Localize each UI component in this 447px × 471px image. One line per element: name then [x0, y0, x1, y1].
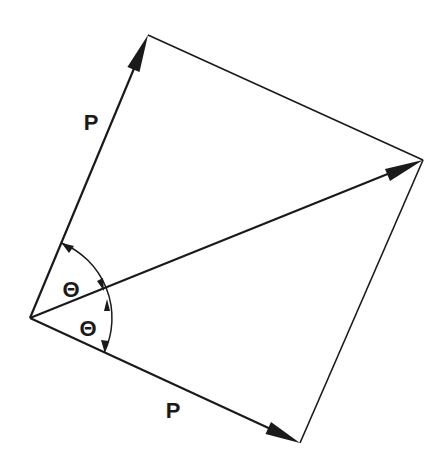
upper-angle-label: Θ	[62, 277, 79, 302]
lower-angle-label: Θ	[79, 316, 96, 341]
lower-force-vector	[30, 318, 300, 443]
upper-force-arrowhead-icon	[127, 35, 148, 72]
upper-force-label: P	[84, 110, 99, 135]
resultant-arrowhead-icon	[385, 160, 423, 181]
lower-force-label: P	[166, 398, 181, 423]
upper-angle-arrowhead-icon	[62, 243, 75, 253]
upper-force-vector	[30, 35, 148, 318]
parallelogram-of-forces-diagram: P P Θ Θ	[0, 0, 447, 471]
lower-angle-mid-arrowhead-icon	[104, 299, 110, 311]
lower-force-arrowhead-icon	[266, 422, 301, 443]
side-top-right	[148, 35, 423, 160]
